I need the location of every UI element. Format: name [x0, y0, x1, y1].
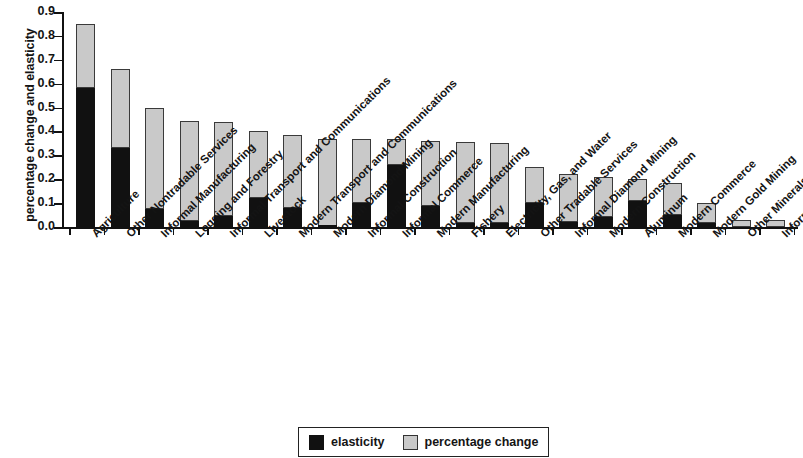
- y-axis-tick: [54, 203, 62, 205]
- x-axis-label: Other Tradable Services: [538, 231, 546, 239]
- x-axis-label: Electricity, Gas, and Water: [504, 231, 512, 239]
- y-axis-tick: [54, 131, 62, 133]
- x-axis-label: Informal Gold Mining: [780, 231, 788, 239]
- y-axis-tick-label: 0.8: [21, 28, 55, 42]
- x-axis-label: Other Nontradable Services: [124, 231, 132, 239]
- y-axis-tick-label: 0.0: [21, 219, 55, 233]
- legend-label-elasticity: elasticity: [331, 435, 385, 449]
- x-axis-label: Modern Transport and Communications: [297, 231, 305, 239]
- legend-label-percentage-change: percentage change: [425, 435, 539, 449]
- legend-item-percentage-change: percentage change: [403, 435, 539, 450]
- y-axis-tick: [54, 155, 62, 157]
- y-axis-tick-label: 0.3: [21, 147, 55, 161]
- y-axis-tick-label: 0.1: [21, 195, 55, 209]
- y-axis-tick-label: 0.5: [21, 100, 55, 114]
- y-axis-tick: [54, 227, 62, 229]
- x-axis-label: Informal Commerce: [400, 231, 408, 239]
- black-swatch-icon: [309, 435, 324, 450]
- y-axis-tick-label: 0.6: [21, 76, 55, 90]
- y-axis-tick: [54, 12, 62, 14]
- x-axis-label: Modern Gold Mining: [711, 231, 719, 239]
- x-axis-label: Informal Manufacturing: [159, 231, 167, 239]
- y-axis-tick: [54, 179, 62, 181]
- stacked-bar-chart: percentage change and elasticity 0.00.10…: [0, 0, 803, 458]
- x-axis-label: Informal Transport and Communications: [228, 231, 236, 239]
- y-axis-tick-label: 0.9: [21, 4, 55, 18]
- x-axis-label: Fishery: [469, 231, 477, 239]
- gray-swatch-icon: [403, 435, 418, 450]
- x-axis-label: Modern Commerce: [676, 231, 684, 239]
- y-axis-tick-label: 0.4: [21, 123, 55, 137]
- y-axis-line: [62, 12, 64, 228]
- x-axis-label: Modern Construction: [607, 231, 615, 239]
- legend-item-elasticity: elasticity: [309, 435, 385, 450]
- x-axis-label: Modern Diamond Mining: [331, 231, 339, 239]
- x-axis-label: Informal Construction: [366, 231, 374, 239]
- x-axis-label: Livestock: [262, 231, 270, 239]
- x-axis-label: Aluminum: [642, 231, 650, 239]
- x-axis-label: Logging and Forestry: [193, 231, 201, 239]
- bar-segment-percentage-change: [111, 69, 130, 148]
- x-axis-label: Informal Diamond Mining: [573, 231, 581, 239]
- y-axis-tick: [54, 36, 62, 38]
- x-axis-label: Other Minerals: [745, 231, 753, 239]
- x-axis-labels: AgricultureOther Nontradable ServicesInf…: [62, 231, 802, 381]
- chart-legend: elasticity percentage change: [298, 427, 549, 457]
- bar-1: [76, 24, 95, 227]
- y-axis-tick-label: 0.7: [21, 52, 55, 66]
- y-axis-tick: [54, 60, 62, 62]
- y-axis-tick-label: 0.2: [21, 171, 55, 185]
- x-axis-label: Modern Manufacturing: [435, 231, 443, 239]
- y-axis-tick: [54, 108, 62, 110]
- bar-segment-percentage-change: [76, 24, 95, 89]
- y-axis-tick: [54, 84, 62, 86]
- bar-segment-elasticity: [76, 88, 95, 227]
- x-axis-label: Agriculture: [90, 231, 98, 239]
